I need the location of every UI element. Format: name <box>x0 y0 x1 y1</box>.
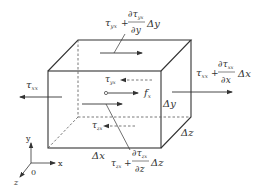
svg-text:∂τzx: ∂τzx <box>132 148 147 159</box>
svg-text:∂z: ∂z <box>135 164 145 174</box>
y-axis-label: y <box>25 134 31 143</box>
cube <box>48 40 191 148</box>
x-axis-label: x <box>58 159 63 168</box>
right-stress-label: τxx + ∂τxx ∂x Δx <box>196 59 251 85</box>
top-leader-line <box>114 34 125 53</box>
svg-text:τzx: τzx <box>111 158 122 169</box>
svg-text:∂τxx: ∂τxx <box>218 59 233 70</box>
svg-text:Δx: Δx <box>237 68 251 79</box>
dimension-dy-label: Δy <box>162 98 176 109</box>
svg-text:Δy: Δy <box>146 18 160 29</box>
dimension-dx-label: Δx <box>91 150 105 161</box>
svg-text:+: + <box>124 158 132 168</box>
origin-label: 0 <box>31 168 36 177</box>
svg-text:fx: fx <box>143 87 152 99</box>
dimension-dz-label: Δz <box>180 127 194 138</box>
svg-text:τxx: τxx <box>196 67 209 79</box>
top-stress-label: τyx + ∂τyx ∂y Δy <box>105 9 160 35</box>
left-stress-label: τxx <box>26 79 39 91</box>
z-axis-label: z <box>13 178 19 187</box>
body-force-origin <box>104 91 107 94</box>
svg-text:+: + <box>121 18 129 28</box>
hidden-edge-depth <box>48 117 78 148</box>
svg-text:τyx: τyx <box>105 17 118 30</box>
svg-text:∂y: ∂y <box>131 25 142 35</box>
bottom-leader-line <box>106 104 130 150</box>
coordinate-axes: y x z 0 <box>13 134 63 187</box>
svg-text:∂τyx: ∂τyx <box>128 9 143 21</box>
svg-text:+: + <box>211 68 219 78</box>
body-force: fx <box>104 87 151 99</box>
bottom-stress-label: τzx + ∂τzx ∂z Δz <box>111 148 164 174</box>
z-axis-arrow <box>20 163 31 177</box>
svg-text:∂x: ∂x <box>221 75 231 85</box>
inner-top-stress-label: τyx <box>105 74 116 86</box>
inner-bottom-stress-label: τzx <box>92 120 103 131</box>
fluid-element-diagram: τyx + ∂τyx ∂y Δy τxx + ∂τxx ∂x Δx τxx τy… <box>0 0 257 194</box>
svg-text:Δz: Δz <box>150 157 164 168</box>
cube-top-face <box>48 40 191 71</box>
